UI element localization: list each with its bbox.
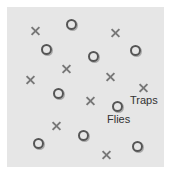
trap-x-icon <box>110 27 121 38</box>
fly-circle-icon <box>41 44 52 55</box>
fly-circle-icon <box>112 101 123 112</box>
trap-x-icon <box>61 63 72 74</box>
fly-circle-icon <box>53 88 64 99</box>
fly-circle-icon <box>130 45 141 56</box>
fly-circle-icon <box>66 19 77 30</box>
fly-circle-icon <box>88 51 99 62</box>
trap-x-icon <box>101 149 112 160</box>
trap-x-icon <box>105 71 116 82</box>
fly-circle-icon <box>33 138 44 149</box>
trap-x-icon <box>85 95 96 106</box>
traps-label: Traps <box>130 94 158 106</box>
fly-circle-icon <box>78 130 89 141</box>
trap-x-icon <box>51 120 62 131</box>
trap-x-icon <box>138 82 149 93</box>
flies-label: Flies <box>107 113 130 125</box>
trap-x-icon <box>25 74 36 85</box>
trap-x-icon <box>30 25 41 36</box>
fly-circle-icon <box>132 141 143 152</box>
